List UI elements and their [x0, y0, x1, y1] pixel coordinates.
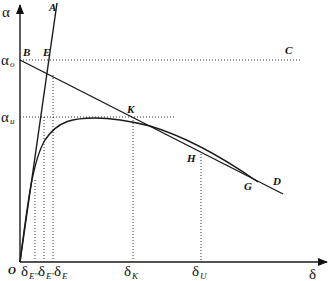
origin-label: O [8, 264, 16, 276]
point-label-K: K [126, 103, 135, 115]
y-tick-alpha-u: α u [1, 109, 15, 126]
point-label-H: H [186, 152, 196, 164]
alpha-delta-diagram: α δ O α o α u δ E'' δ E' δ E δ K δ U A B… [0, 0, 330, 281]
svg-text:E: E [61, 271, 68, 281]
y-tick-alpha-o: α o [1, 52, 15, 69]
x-tick-delta-e: δ E [54, 263, 68, 281]
point-label-E: E [42, 46, 50, 58]
point-label-C: C [285, 44, 293, 56]
svg-text:α: α [1, 52, 9, 68]
svg-text:o: o [10, 59, 15, 69]
x-tick-delta-u: δ U [192, 263, 207, 281]
svg-text:δ: δ [21, 263, 28, 279]
svg-text:δ: δ [54, 263, 61, 279]
point-label-D: D [272, 175, 281, 187]
svg-text:δ: δ [124, 263, 131, 279]
svg-text:U: U [200, 271, 207, 281]
svg-text:u: u [10, 116, 15, 126]
response-curve [20, 118, 258, 262]
svg-text:K: K [131, 271, 139, 281]
point-label-B: B [22, 46, 30, 58]
y-axis-label: α [2, 4, 10, 20]
x-axis-label: δ [309, 266, 316, 281]
x-tick-delta-e1: δ E' [38, 263, 54, 281]
svg-text:δ: δ [192, 263, 199, 279]
point-label-G: G [244, 180, 252, 192]
point-label-A: A [48, 1, 56, 13]
svg-text:α: α [1, 109, 9, 125]
svg-text:δ: δ [38, 263, 45, 279]
x-tick-delta-k: δ K [124, 263, 139, 281]
x-tick-delta-e2: δ E'' [21, 263, 39, 281]
